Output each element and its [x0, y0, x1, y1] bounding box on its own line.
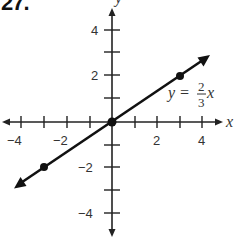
x-axis-left-arrow-icon [2, 119, 10, 126]
data-point [40, 163, 48, 171]
equation-numerator: 2 [198, 79, 205, 94]
y-axis-label: y [113, 0, 123, 7]
y-tick-label: 2 [91, 68, 98, 83]
y-axis-down-arrow-icon [109, 229, 116, 237]
equation-lhs: y = [166, 84, 190, 102]
x-tick-label: −4 [7, 133, 22, 148]
x-axis-label: x [225, 113, 233, 130]
equation-denominator: 3 [198, 95, 205, 110]
x-tick-label: 4 [198, 133, 205, 148]
data-point-origin [108, 118, 117, 127]
svg-text:y =: y = [166, 84, 190, 102]
data-point [176, 72, 184, 80]
coordinate-plane: −4 −2 2 4 x 4 2 −2 −4 y [0, 0, 236, 244]
line-arrow-lower-icon [14, 177, 27, 189]
equation-variable: x [206, 84, 214, 101]
y-tick-label: −2 [78, 160, 93, 175]
equation-label: y = 2 3 x [166, 79, 214, 110]
y-tick-label: −4 [78, 206, 93, 221]
line-arrow-upper-icon [198, 55, 211, 67]
y-tick-label: 4 [91, 23, 98, 38]
x-axis-right-arrow-icon [215, 119, 223, 126]
x-tick-label: −2 [53, 133, 68, 148]
x-tick-label: 2 [153, 133, 160, 148]
y-axis-up-arrow-icon [109, 8, 116, 16]
